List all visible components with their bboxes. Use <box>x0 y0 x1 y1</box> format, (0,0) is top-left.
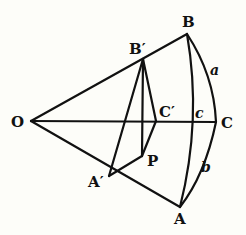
edge-Bp-P <box>142 59 143 156</box>
label-B-prime: B′ <box>129 40 146 58</box>
edge-Cp-P <box>142 121 156 156</box>
label-arc-c: c <box>195 105 204 121</box>
spherical-triangle-diagram: O B B′ C C′ A A′ P a b c <box>0 0 246 235</box>
label-O: O <box>11 113 24 131</box>
label-arc-b: b <box>201 159 211 175</box>
label-C: C <box>221 114 233 132</box>
label-A: A <box>173 210 186 228</box>
label-C-prime: C′ <box>159 103 175 121</box>
label-B: B <box>182 13 195 31</box>
label-P: P <box>147 152 158 170</box>
label-A-prime: A′ <box>87 173 104 191</box>
edge-Bp-Cp <box>143 59 156 121</box>
edge-O-C <box>31 121 216 122</box>
arc-c-B-A <box>180 34 193 207</box>
label-arc-a: a <box>210 62 219 78</box>
